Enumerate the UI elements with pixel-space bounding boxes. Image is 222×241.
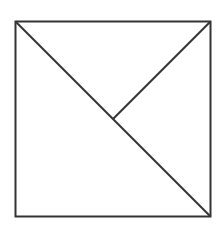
diagram-canvas — [0, 0, 222, 241]
center-segment — [113, 22, 211, 120]
